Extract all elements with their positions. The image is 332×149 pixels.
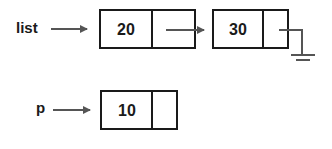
pointer-list: list — [16, 19, 87, 36]
node-box — [101, 91, 177, 129]
node-10: 10 — [101, 91, 177, 129]
node-value: 20 — [117, 21, 135, 38]
null-ground-icon — [279, 30, 315, 60]
node-value: 30 — [229, 21, 247, 38]
pointer-label-p: p — [36, 99, 45, 116]
node-box — [213, 10, 288, 48]
node-20: 20 — [100, 10, 204, 48]
pointer-p: p — [36, 99, 90, 116]
node-value: 10 — [118, 102, 136, 119]
pointer-label-list: list — [16, 19, 38, 36]
node-30: 30 — [213, 10, 315, 60]
linked-list-diagram: list 20 30 p 10 — [0, 0, 332, 149]
